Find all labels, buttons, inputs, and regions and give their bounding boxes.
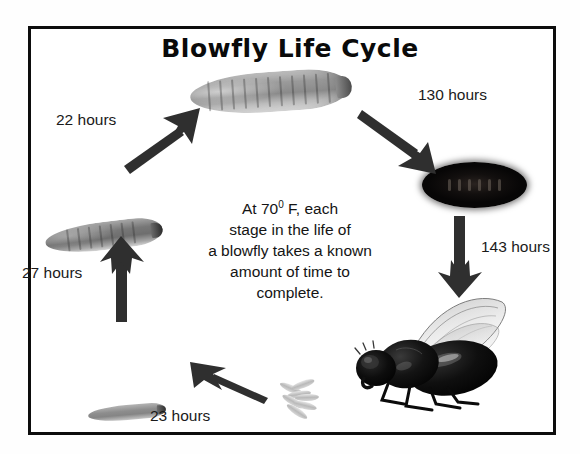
arrow-second-instar-to-third-instar [122,108,200,174]
label-pupa-to-adult: 143 hours [481,238,550,256]
label-eggs-to-first-instar: 23 hours [150,407,210,425]
center-text-line-1-pre: At 70 [242,200,278,217]
center-text-line-3: a blowfly takes a known [190,240,390,261]
label-third-instar-to-pupa: 130 hours [418,86,487,104]
arrow-eggs-to-first-instar [188,358,272,404]
larva-head [150,222,164,238]
page-title: Blowfly Life Cycle [0,34,580,63]
arrow-first-instar-to-second-instar [100,236,144,322]
center-explanatory-text: At 700 F, each stage in the life of a bl… [190,194,390,303]
stage-adult-blowfly [352,296,542,416]
center-text-line-1-post: F, each [284,200,338,217]
stage-eggs [277,375,319,417]
center-text-line-4: amount of time to [190,261,390,282]
label-second-to-third-instar: 22 hours [56,111,116,129]
center-text-line-2: stage in the life of [190,219,390,240]
arrow-pupa-to-adult [438,216,482,298]
arrow-third-instar-to-pupa [360,108,444,176]
label-first-to-second-instar: 27 hours [22,264,82,282]
center-text-line-1: At 700 F, each [190,194,390,219]
adult-blowfly-illustration [352,296,542,416]
